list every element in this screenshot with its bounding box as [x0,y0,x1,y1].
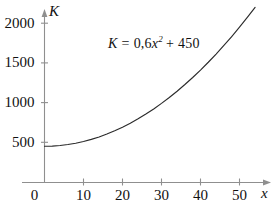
x-tick-label: 40 [181,188,221,203]
x-tick-label: 20 [103,188,143,203]
y-axis-label: K [49,4,59,19]
x-axis [22,180,271,186]
chart-figure: 500100015002000 01020304050 K x K=0,6x2+… [0,0,275,210]
x-axis-label: x [261,186,268,201]
chart-canvas [0,0,275,210]
function-curve [45,7,256,146]
y-tick-label: 1500 [0,55,35,70]
y-tick-label: 1000 [0,95,35,110]
y-tick-label: 2000 [0,16,35,31]
x-tick-label: 30 [142,188,182,203]
x-tick-label: 0 [15,188,55,203]
x-tick-label: 50 [220,188,260,203]
equation-plus: + [166,36,174,51]
equation-constant: 450 [178,36,200,51]
x-tick-label: 10 [64,188,104,203]
y-tick-label: 500 [0,135,35,150]
equation-exponent: 2 [158,34,163,44]
equation-coefficient: 0,6 [134,36,152,51]
y-axis-arrow-icon [42,9,48,17]
equation-annotation: K=0,6x2+450 [108,36,200,52]
equation-equals: = [122,36,130,51]
equation-lhs: K [108,36,118,51]
y-axis [42,9,48,182]
